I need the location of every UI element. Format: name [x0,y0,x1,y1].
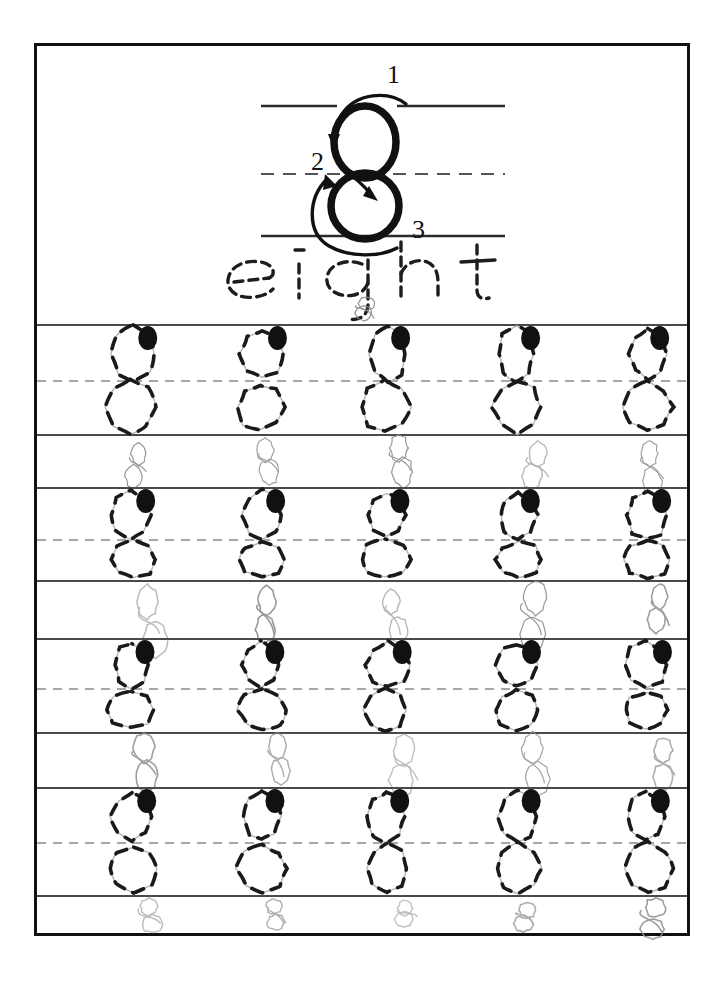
student-practice-canvas [37,581,693,639]
pencil-upper-loop [258,585,276,615]
trace-start-dot [651,789,670,813]
practice-band-canvas [37,635,693,737]
trace-glyph-lower-loop [626,693,667,730]
student-pencil-mark-8 [653,738,675,790]
pencil-upper-loop [137,584,158,620]
student-pencil-mark-8 [355,297,375,320]
trace-glyph-lower-loop [363,688,406,731]
pencil-upper-loop [523,581,546,616]
pencil-stray-stroke [268,750,284,776]
stroke-3-arrow [312,174,397,255]
student-practice-row [37,581,693,639]
trace-start-dot [135,640,154,664]
trace-start-dot [137,789,156,813]
pencil-upper-loop [266,899,282,914]
trace-glyph-lower-loop [498,842,542,894]
trace-start-dot [522,640,541,664]
stroke-order-diagram: 1 2 3 [37,46,693,311]
worksheet-frame: 1 2 3 [34,43,690,936]
trace-glyph-8 [498,789,542,894]
trace-start-dot [266,489,285,513]
student-practice-row [37,896,693,932]
trace-start-dot [136,489,155,513]
student-pencil-mark-8 [389,435,413,489]
trace-glyph-8 [110,789,157,893]
trace-glyph-lower-loop [623,381,674,431]
pencil-upper-loop [140,897,158,916]
trace-glyph-8 [238,326,287,430]
student-practice-canvas-top [37,295,693,325]
stroke-step-2-label: 2 [311,147,324,176]
student-pencil-mark-8 [640,898,666,940]
trace-glyph-8 [111,489,155,578]
word-letter-e [228,261,273,297]
trace-start-dot [138,326,157,350]
trace-glyph-8 [624,489,671,579]
word-letter-t [461,245,495,299]
trace-glyph-lower-loop [491,381,541,434]
word-letter-i [295,250,304,298]
pencil-stray-stroke [526,458,548,477]
trace-glyph-8 [362,326,411,431]
trace-start-dot [652,489,671,513]
trace-start-dot [390,489,409,513]
trace-glyph-lower-loop [237,689,286,730]
practice-band-canvas [37,484,693,585]
trace-start-dot [268,326,287,350]
pencil-upper-loop [257,438,275,463]
pencil-upper-loop [133,733,155,764]
student-practice-row [37,733,693,788]
student-pencil-mark-8 [514,903,536,933]
student-practice-row [37,435,693,488]
student-pencil-mark-8 [394,900,417,927]
trace-glyph-8 [623,326,674,430]
trace-glyph-8 [625,640,672,729]
pencil-stray-stroke [394,755,418,780]
trace-glyph-8 [495,489,541,578]
practice-band-canvas [37,784,693,900]
trace-start-dot [521,489,540,513]
student-practice-row-top [37,295,693,325]
student-pencil-mark-8 [257,438,279,486]
pencil-lower-loop [514,915,534,933]
trace-glyph-8 [236,789,288,893]
pencil-upper-loop [393,734,414,767]
practice-band-canvas [37,321,693,439]
trace-glyph-8 [237,640,286,730]
trace-glyph-8 [363,489,412,577]
trace-glyph-8 [496,640,542,731]
pencil-lower-loop [272,758,291,785]
trace-start-dot [521,326,540,350]
student-pencil-mark-8 [125,443,147,490]
practice-band [37,484,693,585]
pencil-stray-stroke [138,608,159,633]
student-pencil-mark-8 [266,899,285,930]
trace-glyph-8 [367,789,409,892]
header-stroke-order-model: 1 2 3 [37,46,693,311]
trace-glyph-lower-loop [495,541,541,578]
worksheet-page: 1 2 3 [0,0,724,983]
trace-glyph-8 [625,789,674,892]
student-practice-canvas [37,896,693,932]
student-practice-canvas [37,435,693,488]
student-pencil-mark-8 [138,897,163,932]
trace-glyph-lower-loop [239,542,284,577]
stroke-step-1-label: 1 [387,60,400,89]
trace-start-dot [653,640,672,664]
trace-glyph-8 [105,325,157,434]
pencil-upper-loop [383,589,401,615]
pencil-upper-loop [652,584,668,610]
model-digit-8 [331,106,399,239]
trace-glyph-8 [107,640,155,727]
pencil-stray-stroke [640,911,662,933]
trace-start-dot [391,326,410,350]
practice-band [37,635,693,737]
pencil-upper-loop [646,898,666,917]
practice-band [37,321,693,439]
student-practice-canvas [37,733,693,788]
student-pencil-mark-8 [522,441,549,490]
trace-glyph-8 [363,640,412,731]
trace-glyph-lower-loop [624,541,670,579]
pencil-stray-stroke [520,603,541,634]
stroke-step-3-label: 3 [412,215,425,244]
